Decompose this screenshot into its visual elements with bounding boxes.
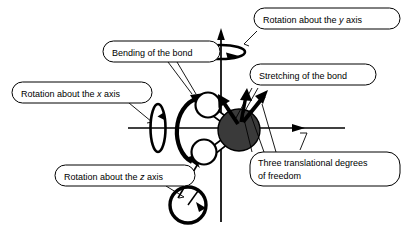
callout-translational-label-line1: Three translational degrees [258,158,368,168]
callout-stretching-label: Stretching of the bond [259,71,347,81]
upper-atom [196,93,221,118]
callout-translational-label-line2: of freedom [258,171,301,181]
callout-stretching[interactable]: Stretching of the bond [250,64,376,85]
callout-rotation-x[interactable]: Rotation about the x axis [12,82,152,103]
callout-rotation-z[interactable]: Rotation about the z axis [55,165,195,186]
molecule-degrees-of-freedom-diagram: Rotation about the y axis Bending of the… [0,0,405,230]
callout-rotation-z-label: Rotation about the z axis [64,172,164,182]
lower-atom [192,140,217,165]
diagram-canvas: Rotation about the y axis Bending of the… [0,0,405,230]
leader-rotation-y [244,31,257,46]
rotation-x-arrowhead [158,112,166,121]
central-atom [218,109,260,151]
callout-translational[interactable]: Three translational degrees of freedom [250,152,400,186]
callout-rotation-x-label: Rotation about the x axis [21,89,121,99]
leader-translational-4 [300,133,307,150]
callout-rotation-y-label: Rotation about the y axis [263,15,363,25]
callout-rotation-y[interactable]: Rotation about the y axis [254,8,400,29]
callout-bending-label: Bending of the bond [112,48,193,58]
rotation-z-circle [170,187,206,223]
x-axis-arrowhead [292,124,305,132]
y-axis-arrowhead [217,28,225,40]
callout-bending[interactable]: Bending of the bond [103,41,220,62]
